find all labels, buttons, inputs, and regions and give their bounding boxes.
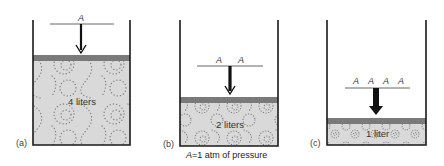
- panel-label-c: (c): [310, 138, 321, 148]
- panel-label-a: (a): [16, 138, 27, 148]
- pressure-label: A: [77, 13, 84, 23]
- panel-a: A 4 liters (a): [16, 13, 130, 148]
- piston-c: [327, 118, 426, 124]
- pressure-label: A: [367, 76, 374, 86]
- down-arrow-icon: [369, 88, 383, 115]
- pressure-label: A: [397, 76, 404, 86]
- piston-a: [33, 55, 130, 61]
- caption-text: =1 atm of pressure: [192, 150, 267, 160]
- down-arrow-icon: [76, 24, 86, 53]
- piston-b: [180, 97, 278, 103]
- pressure-label: A: [382, 76, 389, 86]
- boyles-law-diagram: A 4 liters (a) A A 2 liters (b) A=1 atm …: [0, 0, 444, 166]
- caption-symbol: A: [185, 150, 192, 160]
- pressure-label: A: [215, 55, 222, 65]
- panel-c: A A A A 1 liter (c): [310, 20, 426, 148]
- pressure-label: A: [237, 55, 244, 65]
- pressure-label: A: [352, 76, 359, 86]
- volume-label-c: 1 liter: [366, 128, 389, 139]
- volume-label-b: 2 liters: [216, 119, 244, 130]
- volume-label-a: 4 liters: [68, 96, 96, 107]
- panel-label-b: (b): [163, 139, 174, 149]
- down-arrow-icon: [225, 66, 235, 94]
- caption: A=1 atm of pressure: [185, 150, 267, 160]
- panel-b: A A 2 liters (b): [163, 20, 278, 149]
